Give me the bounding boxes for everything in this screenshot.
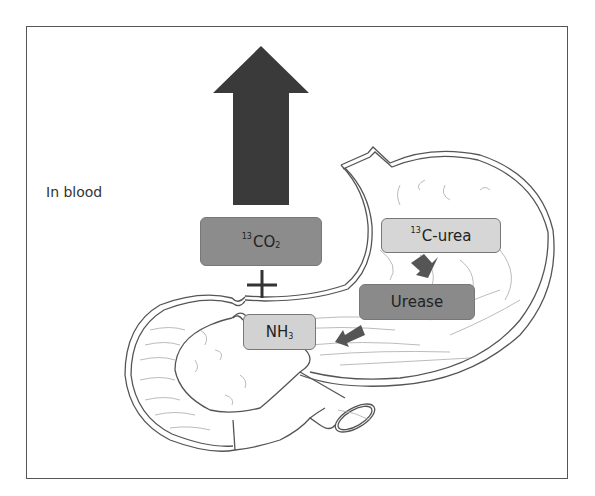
node-nh3: NH3 [243,314,316,350]
urea-label: C-urea [422,227,472,245]
node-13c-urea: 13C-urea [381,218,501,253]
nh3-formula: NH [266,323,289,341]
co2-isotope: 13 [242,232,252,241]
plus-icon [247,270,277,298]
node-co2: 13CO2 [200,217,322,266]
urea-isotope: 13 [411,226,421,235]
urea-to-urease-arrow-icon [411,254,438,278]
large-up-arrow-icon [213,46,309,205]
urease-label: Urease [391,293,443,311]
node-urease: Urease [359,284,475,320]
in-blood-label: In blood [46,184,102,200]
co2-subscript: 2 [275,241,280,250]
urease-to-nh3-arrow-icon [335,325,365,347]
nh3-subscript: 3 [288,332,293,341]
co2-formula: CO [253,233,275,251]
